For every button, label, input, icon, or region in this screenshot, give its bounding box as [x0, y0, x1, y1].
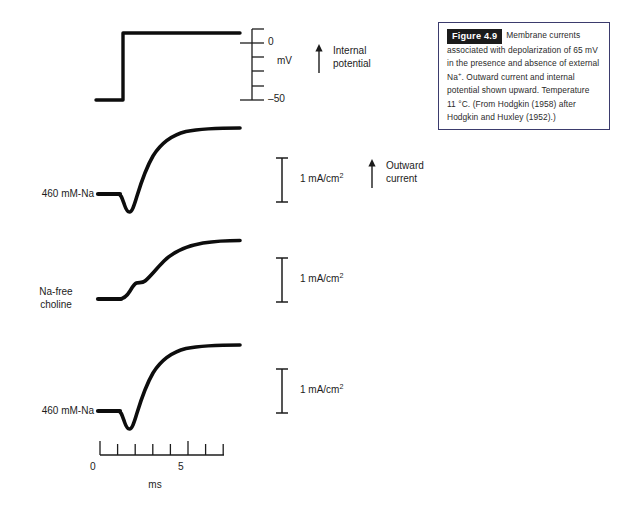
time-axis-unit-label: ms — [142, 479, 168, 492]
time-tick-label-0: 0 — [90, 461, 110, 472]
trace-na-free-choline — [98, 241, 240, 300]
internal-potential-label-line1: Internal — [333, 45, 366, 56]
scale-bar-1-lower — [276, 369, 288, 413]
scale-label-choline: 1 mA/cm2 — [300, 273, 343, 286]
scale-label-lower-sup: 2 — [339, 382, 343, 391]
figure-graphics — [0, 0, 619, 512]
trace-label-choline-line1: Na-free — [39, 286, 72, 297]
voltage-axis — [240, 29, 264, 100]
voltage-step-trace — [96, 33, 240, 100]
time-axis — [100, 441, 224, 455]
outward-current-label-line2: current — [386, 173, 417, 184]
voltage-tick-label-zero: 0 — [268, 36, 274, 47]
outward-current-label-line1: Outward — [386, 160, 424, 171]
internal-potential-label-line2: potential — [333, 58, 371, 69]
scale-label-choline-sup: 2 — [339, 271, 343, 280]
scale-label-upper-sup: 2 — [339, 171, 343, 180]
trace-460mM-na-lower — [98, 345, 240, 429]
voltage-unit-label: mV — [277, 55, 292, 68]
trace-label-460mM-na-lower: 460 mM-Na — [8, 405, 94, 418]
scale-label-upper-text: 1 mA/cm — [300, 173, 339, 184]
trace-label-na-free-choline: Na-free choline — [18, 286, 94, 311]
voltage-tick-label-minus-fifty: –50 — [268, 93, 285, 104]
outward-current-arrow-icon — [368, 159, 375, 188]
trace-460mM-na-upper — [98, 128, 240, 212]
scale-label-lower: 1 mA/cm2 — [300, 384, 343, 397]
scale-label-lower-text: 1 mA/cm — [300, 384, 339, 395]
scale-bar-1-choline — [276, 258, 288, 302]
trace-label-460mM-na-upper: 460 mM-Na — [8, 188, 94, 201]
scale-bar-1-upper — [276, 158, 288, 202]
trace-label-choline-line2: choline — [40, 299, 72, 310]
scale-label-upper: 1 mA/cm2 — [300, 173, 343, 186]
outward-current-label: Outward current — [386, 160, 424, 185]
figure-4-9: Figure 4.9Membrane currents associated w… — [0, 0, 619, 512]
internal-potential-label: Internal potential — [333, 45, 371, 70]
scale-label-choline-text: 1 mA/cm — [300, 273, 339, 284]
time-tick-label-5: 5 — [178, 461, 198, 472]
internal-potential-arrow-icon — [315, 44, 322, 73]
